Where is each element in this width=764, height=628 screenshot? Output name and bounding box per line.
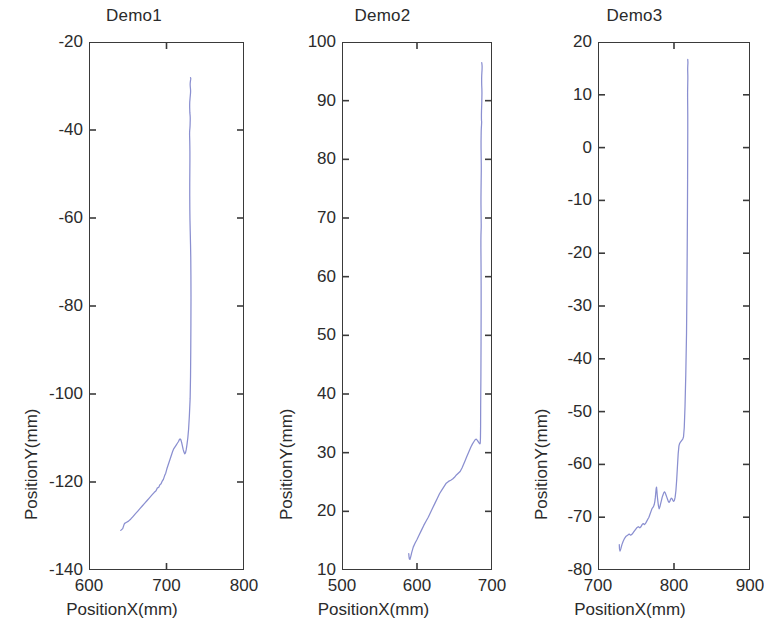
chart-panel-demo1: Demo1 PositionX(mm) PositionY(mm) -20-40… — [0, 0, 268, 628]
xtick-label: 500 — [328, 576, 356, 596]
ytick-label: 30 — [255, 443, 336, 463]
ytick-label: -60 — [510, 454, 592, 474]
xtick-label: 700 — [152, 576, 180, 596]
ytick-label: -40 — [510, 349, 592, 369]
yaxis-title-demo1: PositionY(mm) — [22, 409, 42, 520]
xtick-label: 700 — [584, 576, 612, 596]
ytick-label: 40 — [255, 384, 336, 404]
ytick-label: 10 — [255, 560, 336, 580]
ytick-label: 100 — [255, 32, 336, 52]
data-trace — [409, 63, 482, 560]
xtick-label: 800 — [660, 576, 688, 596]
ytick-label: 80 — [255, 149, 336, 169]
xtick-label: 800 — [230, 576, 258, 596]
xaxis-title-demo2: PositionX(mm) — [255, 600, 492, 620]
ytick-label: -40 — [0, 120, 83, 140]
ytick-label: -70 — [510, 507, 592, 527]
ytick-label: -30 — [510, 296, 592, 316]
ytick-label: -20 — [0, 32, 83, 52]
ytick-label: -140 — [0, 560, 83, 580]
xaxis-title-demo3: PositionX(mm) — [510, 600, 750, 620]
xaxis-title-demo1: PositionX(mm) — [0, 600, 244, 620]
xtick-label: 900 — [736, 576, 764, 596]
xtick-label: 600 — [403, 576, 431, 596]
ytick-label: -60 — [0, 208, 83, 228]
ytick-label: -10 — [510, 190, 592, 210]
chart-panel-demo3: Demo3 PositionX(mm) PositionY(mm) 20100-… — [510, 0, 759, 628]
ytick-label: -80 — [510, 560, 592, 580]
ytick-label: 20 — [510, 32, 592, 52]
ytick-label: 70 — [255, 208, 336, 228]
ytick-label: -50 — [510, 402, 592, 422]
ytick-label: -120 — [0, 472, 83, 492]
data-trace — [121, 78, 191, 531]
ytick-label: 60 — [255, 267, 336, 287]
ytick-label: -20 — [510, 243, 592, 263]
ytick-label: 20 — [255, 501, 336, 521]
ytick-label: 10 — [510, 85, 592, 105]
xtick-label: 600 — [75, 576, 103, 596]
data-trace — [619, 59, 688, 551]
xtick-label: 700 — [478, 576, 506, 596]
chart-panel-demo2: Demo2 PositionX(mm) PositionY(mm) 100908… — [255, 0, 510, 628]
ytick-label: -100 — [0, 384, 83, 404]
ytick-label: 0 — [510, 138, 592, 158]
ytick-label: -80 — [0, 296, 83, 316]
ytick-label: 90 — [255, 91, 336, 111]
ytick-label: 50 — [255, 325, 336, 345]
